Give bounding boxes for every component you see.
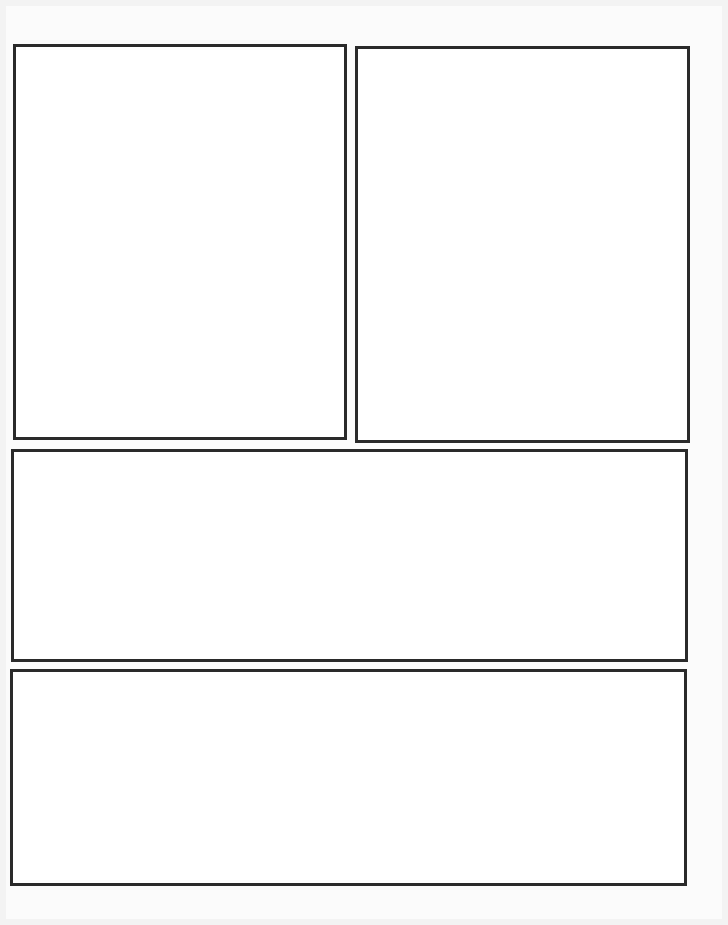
- comic-panel-4: [10, 669, 687, 886]
- comic-panel-2: [355, 46, 690, 443]
- comic-panel-1: [13, 44, 347, 440]
- comic-panel-3: [11, 449, 688, 662]
